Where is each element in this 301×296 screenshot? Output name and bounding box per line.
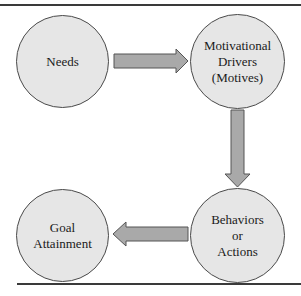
arrow-down-icon [225, 110, 250, 187]
node-needs: Needs [16, 15, 109, 108]
node-behaviors-label: Behaviors or Actions [211, 212, 264, 260]
arrow-right-icon [114, 49, 188, 73]
node-motives-label: Motivational Drivers (Motives) [204, 38, 271, 86]
node-goal-label: Goal Attainment [33, 220, 92, 252]
node-behaviors-or-actions: Behaviors or Actions [190, 188, 285, 283]
node-motivational-drivers: Motivational Drivers (Motives) [190, 14, 285, 109]
node-goal-attainment: Goal Attainment [16, 189, 109, 282]
node-needs-label: Needs [46, 54, 79, 70]
arrow-left-icon [113, 222, 188, 246]
